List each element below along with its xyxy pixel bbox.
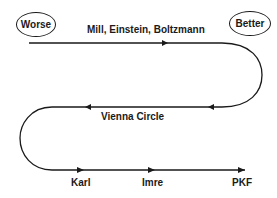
label-pkf: PKF bbox=[232, 178, 252, 188]
arrow-right-top bbox=[162, 40, 168, 46]
better-node: Better bbox=[229, 11, 271, 36]
arrow-left-middle-right bbox=[208, 104, 214, 110]
label-karl: Karl bbox=[71, 178, 90, 188]
arrow-right-imre bbox=[148, 167, 155, 173]
label-mill-einstein-boltzmann: Mill, Einstein, Boltzmann bbox=[87, 25, 205, 35]
arrow-right-pkf bbox=[238, 167, 245, 173]
worse-node: Worse bbox=[16, 12, 56, 37]
label-vienna-circle: Vienna Circle bbox=[101, 112, 164, 122]
arrow-right-karl bbox=[77, 167, 84, 173]
worse-label: Worse bbox=[21, 19, 51, 30]
serpentine-line bbox=[20, 43, 262, 170]
label-imre: Imre bbox=[142, 178, 163, 188]
better-label: Better bbox=[236, 18, 265, 29]
arrow-left-middle-left bbox=[85, 104, 91, 110]
